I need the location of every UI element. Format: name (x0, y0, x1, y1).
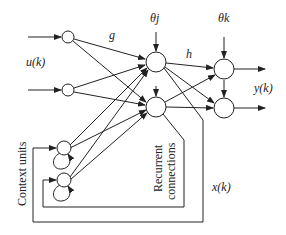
hidden-weights-label: h (186, 47, 192, 62)
hidden-node-1 (146, 52, 166, 72)
input-weights-label: g (109, 28, 115, 43)
hidden-bias-label: θj (150, 11, 159, 26)
recurrent-label-line1: Recurrent (152, 145, 164, 192)
context-units-label: Context units (16, 142, 28, 206)
output-node-1 (214, 59, 234, 79)
state-label: x(k) (212, 180, 231, 195)
output-node-2 (214, 98, 234, 118)
input-node-1 (62, 31, 74, 43)
hidden-node-2 (146, 97, 166, 117)
input-node-2 (62, 84, 74, 96)
output-label: y(k) (254, 81, 273, 96)
network-diagram (0, 0, 286, 235)
output-bias-label: θk (218, 11, 229, 26)
context-node-1 (57, 141, 71, 155)
context-node-2 (57, 173, 71, 187)
input-label: u(k) (26, 55, 45, 70)
recurrent-label-line2: connections (165, 143, 177, 200)
